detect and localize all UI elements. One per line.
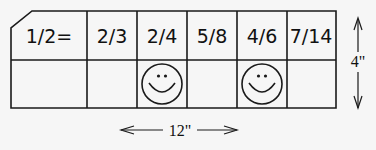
smiley-eye — [157, 74, 160, 77]
header-cell-fraction: 7/14 — [290, 25, 333, 47]
smiley-face-outline — [142, 64, 182, 104]
header-cell-fraction: 2/4 — [147, 25, 178, 47]
header-cell-fraction: 4/6 — [247, 25, 278, 47]
height-dimension: 4" — [351, 18, 366, 108]
smiley-mouth — [249, 83, 275, 92]
smiley-face-icon — [142, 64, 182, 104]
smiley-eye — [164, 74, 167, 77]
smiley-eye — [257, 74, 260, 77]
fraction-strip-diagram: 1/2= 2/3 2/4 5/8 4/6 7/14 4" 12" — [0, 0, 376, 150]
smiley-mouth — [149, 83, 175, 92]
smiley-eye — [264, 74, 267, 77]
width-dimension: 12" — [121, 122, 237, 139]
smiley-face-icon — [242, 64, 282, 104]
header-cell-fraction: 2/3 — [97, 25, 128, 47]
smiley-face-outline — [242, 64, 282, 104]
answer-row — [142, 64, 282, 104]
header-cell-fraction: 5/8 — [197, 25, 228, 47]
height-label: 4" — [351, 53, 366, 70]
width-label: 12" — [169, 122, 192, 139]
header-cell-label: 1/2= — [26, 25, 73, 47]
